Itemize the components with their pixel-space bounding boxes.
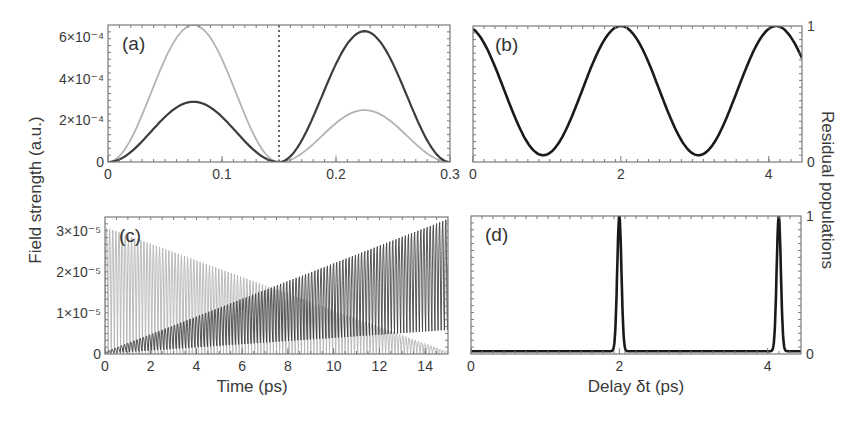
x-tick-label: 0.1 (212, 166, 232, 182)
panel-label-d: (d) (485, 224, 508, 245)
x-tick-label: 2 (615, 358, 623, 374)
x-tick-label: 2 (147, 358, 155, 374)
x-tick-label: 4 (765, 166, 773, 182)
y-tick-label: 1 (806, 208, 814, 224)
x-tick-label: 8 (284, 358, 292, 374)
x-tick-label: 14 (417, 358, 433, 374)
y-axis-title-left: Field strength (a.u.) (26, 116, 45, 263)
plot-area (105, 220, 448, 354)
panel-label-b: (b) (495, 34, 518, 55)
x-tick-label: 0 (469, 166, 477, 182)
x-tick-label: 0 (101, 358, 109, 374)
panel-a-chart: 00.10.20.302×10⁻⁴4×10⁻⁴6×10⁻⁴(a) (59, 25, 460, 182)
panel-label-a: (a) (122, 33, 145, 54)
panel-b-chart: 02401(b) (469, 18, 815, 182)
x-tick-label: 4 (764, 358, 772, 374)
y-tick-label: 0 (93, 346, 101, 362)
y-tick-label: 0 (807, 154, 815, 170)
x-tick-label: 0 (104, 166, 112, 182)
x-tick-label: 2 (617, 166, 625, 182)
x-tick-label: 10 (326, 358, 342, 374)
figure: 00.10.20.302×10⁻⁴4×10⁻⁴6×10⁻⁴(a) 02401(b… (0, 0, 863, 421)
y-tick-label: 6×10⁻⁴ (59, 29, 104, 45)
x-tick-label: 0 (467, 358, 475, 374)
panel-d-chart: 02401(d) (467, 208, 814, 374)
x-axis-title-left: Time (ps) (216, 377, 287, 396)
x-tick-label: 4 (193, 358, 201, 374)
x-tick-label: 0.2 (326, 166, 346, 182)
x-axis-title-right: Delay δt (ps) (588, 377, 684, 396)
y-tick-label: 0 (96, 154, 104, 170)
panel-c-chart: 0246810121401×10⁻⁵2×10⁻⁵3×10⁻⁵(c) (56, 217, 448, 374)
plot-area (473, 26, 802, 155)
x-tick-label: 6 (238, 358, 246, 374)
y-axis-title-right: Residual populations (818, 111, 837, 269)
axes-frame (471, 216, 801, 354)
y-tick-label: 0 (806, 346, 814, 362)
x-tick-label: 12 (372, 358, 388, 374)
axes-frame (473, 26, 802, 162)
plot-area (108, 25, 450, 162)
y-tick-label: 3×10⁻⁵ (56, 223, 101, 239)
y-tick-label: 2×10⁻⁴ (59, 112, 104, 128)
plot-area (471, 216, 801, 351)
y-tick-label: 1 (807, 18, 815, 34)
population-curve (473, 26, 802, 155)
population-peaks-curve (471, 216, 801, 351)
y-tick-label: 1×10⁻⁵ (56, 305, 101, 321)
y-tick-label: 2×10⁻⁵ (56, 264, 101, 280)
x-tick-label: 0.3 (440, 166, 460, 182)
y-tick-label: 4×10⁻⁴ (59, 71, 104, 87)
panel-label-c: (c) (119, 225, 141, 246)
